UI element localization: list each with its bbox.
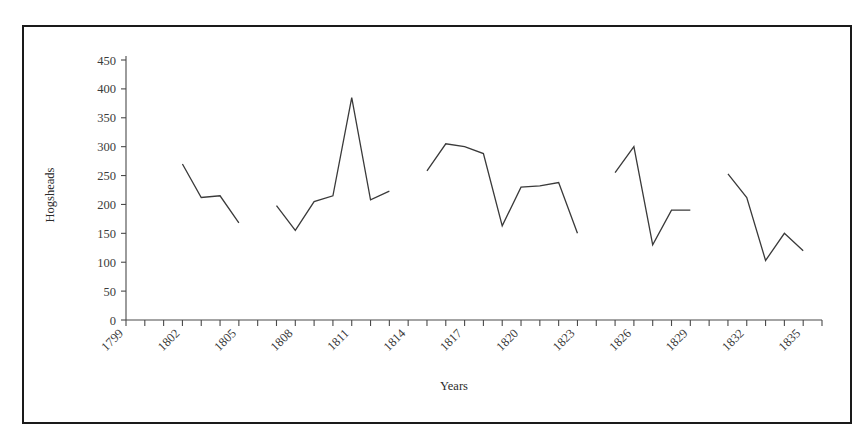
y-tick-label: 400 [97, 82, 116, 96]
x-tick-label: 1820 [494, 326, 522, 354]
chart-border-frame: 050100150200250300350400450 179918021805… [22, 25, 852, 424]
x-tick-label: 1817 [437, 326, 465, 354]
x-tick-label: 1811 [325, 326, 352, 353]
y-tick-label: 200 [97, 198, 116, 212]
y-tick-label: 150 [97, 227, 116, 241]
y-tick-label: 0 [110, 314, 116, 328]
y-axis-title: Hogsheads [43, 167, 57, 222]
y-tick-label: 300 [97, 140, 116, 154]
x-axis-title: Years [440, 379, 468, 393]
x-tick-label: 1823 [550, 326, 578, 354]
line-chart-plot: 050100150200250300350400450 179918021805… [24, 27, 850, 422]
series-segment-5 [728, 174, 803, 261]
x-tick-label: 1805 [211, 326, 239, 354]
y-tick-label: 250 [97, 169, 116, 183]
y-tick-label: 450 [97, 54, 116, 68]
series-segment-4 [615, 147, 690, 245]
x-tick-label: 1802 [155, 326, 183, 354]
y-axis: 050100150200250300350400450 [97, 54, 126, 328]
y-tick-label: 50 [104, 285, 117, 299]
x-tick-label: 1808 [268, 326, 296, 354]
series-segment-3 [427, 144, 577, 234]
series-segment-2 [276, 98, 389, 231]
series-segment-1 [182, 164, 238, 223]
figure-container: 050100150200250300350400450 179918021805… [0, 0, 864, 440]
y-tick-label: 100 [97, 256, 116, 270]
x-tick-label: 1832 [719, 326, 747, 354]
x-tick-label: 1814 [381, 326, 409, 354]
x-tick-label: 1829 [663, 326, 691, 354]
data-series-hogsheads [182, 98, 803, 261]
x-tick-label: 1799 [99, 326, 127, 354]
x-axis: 1799180218051808181118141817182018231826… [99, 320, 822, 354]
x-tick-label: 1826 [606, 326, 634, 354]
y-tick-label: 350 [97, 111, 116, 125]
x-tick-label: 1835 [776, 326, 804, 354]
